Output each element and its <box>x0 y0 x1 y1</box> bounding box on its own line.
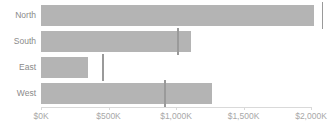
bar-east[interactable] <box>41 57 88 78</box>
category-axis: NorthSouthEastWest <box>0 2 36 107</box>
category-label-south: South <box>0 37 36 46</box>
category-label-east: East <box>0 63 36 72</box>
category-label-north: North <box>0 11 36 20</box>
bar-north[interactable] <box>41 5 314 26</box>
x-tick-mark <box>176 107 177 110</box>
x-tick-label: $500K <box>96 112 121 121</box>
target-marker-north <box>322 2 324 29</box>
x-tick-label: $1,000K <box>160 112 192 121</box>
bar-west[interactable] <box>41 83 212 104</box>
plot-area <box>41 2 311 107</box>
x-tick-label: $2,000K <box>295 112 327 121</box>
target-marker-east <box>102 54 104 81</box>
bar-south[interactable] <box>41 31 191 52</box>
x-tick-mark <box>244 107 245 110</box>
x-tick-mark <box>109 107 110 110</box>
bullet-chart: NorthSouthEastWest $0K$500K$1,000K$1,500… <box>0 0 334 133</box>
x-tick-mark <box>311 107 312 110</box>
target-marker-west <box>164 80 166 107</box>
x-axis-ticks: $0K$500K$1,000K$1,500K$2,000K <box>0 108 334 128</box>
x-tick-label: $1,500K <box>228 112 260 121</box>
x-tick-label: $0K <box>33 112 48 121</box>
bar-row <box>41 57 311 78</box>
bar-row <box>41 83 311 104</box>
bar-row <box>41 5 311 26</box>
category-label-west: West <box>0 89 36 98</box>
x-tick-mark <box>41 107 42 110</box>
target-marker-south <box>177 28 179 55</box>
bar-row <box>41 31 311 52</box>
